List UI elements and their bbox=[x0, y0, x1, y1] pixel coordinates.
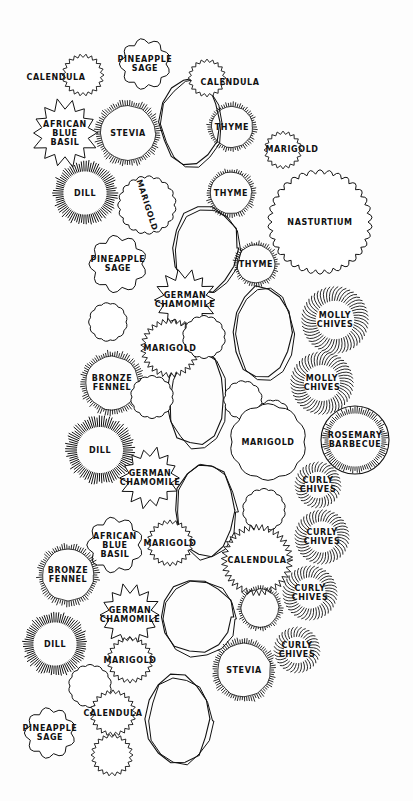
plant-label: MARIGOLD bbox=[143, 539, 196, 548]
plant-plant-unlabeled-9 bbox=[91, 734, 133, 776]
plant-label: DILL bbox=[44, 640, 66, 649]
plant-label: ROSEMARY BARBECUE bbox=[328, 431, 383, 449]
plant-label: CURLY CHIVES bbox=[300, 476, 337, 494]
plant-label: MOLLY CHIVES bbox=[304, 374, 341, 392]
plant-label: THYME bbox=[214, 189, 248, 198]
plant-label: AFRICAN BLUE BASIL bbox=[43, 120, 87, 147]
plant-label: MARIGOLD bbox=[241, 438, 294, 447]
plant-label: THYME bbox=[215, 123, 249, 132]
plant-label: STEVIA bbox=[110, 129, 146, 138]
stepping-stone bbox=[233, 286, 294, 380]
garden-plan-canvas: CALENDULAPINEAPPLE SAGECALENDULAAFRICAN … bbox=[0, 0, 413, 801]
plant-label: DILL bbox=[74, 189, 96, 198]
plant-label: STEVIA bbox=[226, 666, 262, 675]
stepping-stone bbox=[162, 581, 237, 657]
plant-plant-unlabeled-6 bbox=[243, 488, 285, 531]
plant-label: CALENDULA bbox=[26, 73, 85, 82]
plant-label: CURLY CHIVES bbox=[292, 584, 329, 602]
plant-label: DILL bbox=[89, 446, 111, 455]
plant-label: MARIGOLD bbox=[103, 656, 156, 665]
plant-label: CALENDULA bbox=[83, 709, 142, 718]
plant-label: GERMAN CHAMOMILE bbox=[155, 291, 215, 309]
stepping-stone bbox=[145, 674, 214, 765]
plant-label: GERMAN CHAMOMILE bbox=[120, 469, 180, 487]
plant-label: MARIGOLD bbox=[143, 344, 196, 353]
plant-label: CALENDULA bbox=[227, 556, 286, 565]
plant-label: PINEAPPLE SAGE bbox=[23, 724, 78, 742]
plant-label: MOLLY CHIVES bbox=[317, 311, 354, 329]
plant-label: THYME bbox=[239, 260, 273, 269]
plant-label: AFRICAN BLUE BASIL bbox=[93, 532, 137, 559]
plant-label: BRONZE FENNEL bbox=[92, 374, 133, 392]
plant-label: PINEAPPLE SAGE bbox=[118, 55, 173, 73]
plant-label: CALENDULA bbox=[200, 78, 259, 87]
plant-plant-unlabeled-3 bbox=[131, 375, 173, 418]
plant-label: CURLY CHIVES bbox=[304, 528, 341, 546]
plant-label: CURLY CHIVES bbox=[279, 641, 316, 659]
plant-label: MARIGOLD bbox=[265, 145, 318, 154]
plant-label: BRONZE FENNEL bbox=[48, 566, 89, 584]
plant-plant-unlabeled-1 bbox=[89, 303, 127, 342]
plant-label: GERMAN CHAMOMILE bbox=[100, 606, 160, 624]
plant-label: NASTURTIUM bbox=[287, 218, 352, 227]
plant-label: PINEAPPLE SAGE bbox=[91, 255, 146, 273]
